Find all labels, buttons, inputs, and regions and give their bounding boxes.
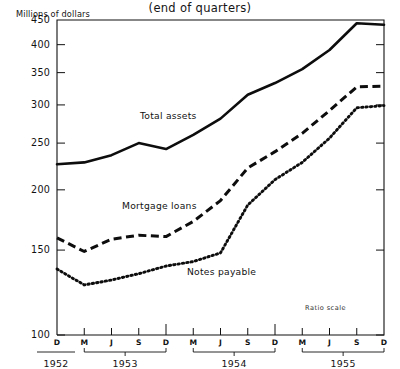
x-axis-year-label: 1955: [313, 358, 373, 369]
x-tick-label: D: [268, 338, 282, 347]
year-brackets: [37, 348, 384, 356]
y-tick-label: 400: [12, 39, 50, 50]
x-axis-year-label: 1953: [95, 358, 155, 369]
x-tick-label: D: [50, 338, 64, 347]
x-tick-label: S: [132, 338, 146, 347]
series-label-notes-payable: Notes payable: [187, 266, 256, 277]
x-tick-label: M: [186, 338, 200, 347]
y-tick-label: 200: [12, 184, 50, 195]
x-axis-ticks: [84, 324, 357, 335]
y-tick-label: 450: [12, 14, 50, 25]
chart-container: (end of quarters) Millions of dollars 10…: [0, 0, 400, 369]
series-line-notes-payable: [57, 106, 384, 285]
y-tick-label: 300: [12, 99, 50, 110]
x-tick-label: M: [77, 338, 91, 347]
y-tick-label: 250: [12, 137, 50, 148]
y-tick-label: 150: [12, 244, 50, 255]
x-tick-label: D: [159, 338, 173, 347]
data-series-group: [57, 23, 384, 285]
y-axis-ticks: [57, 45, 384, 335]
plot-frame: [57, 20, 384, 335]
x-tick-label: S: [241, 338, 255, 347]
x-tick-label: J: [214, 338, 228, 347]
x-tick-label: D: [377, 338, 391, 347]
series-label-mortgage-loans: Mortgage loans: [122, 200, 197, 211]
y-tick-label: 350: [12, 67, 50, 78]
x-axis-year-label: 1952: [26, 358, 86, 369]
series-line-total-assets: [57, 23, 384, 164]
x-axis-year-label: 1954: [204, 358, 264, 369]
x-tick-label: M: [295, 338, 309, 347]
plot-area: [0, 0, 400, 369]
x-tick-label: J: [105, 338, 119, 347]
series-label-total-assets: Total assets: [140, 110, 197, 121]
x-tick-label: J: [323, 338, 337, 347]
y-tick-label: 100: [12, 329, 50, 340]
ratio-scale-note: Ratio scale: [305, 304, 346, 312]
x-tick-label: S: [350, 338, 364, 347]
series-line-mortgage-loans: [57, 86, 384, 251]
